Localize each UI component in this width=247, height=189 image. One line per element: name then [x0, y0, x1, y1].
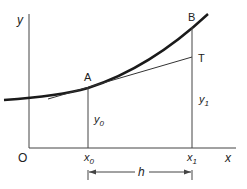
y1-label: y1 — [198, 93, 209, 108]
point-A-label: A — [84, 71, 92, 83]
origin-label: O — [18, 151, 27, 165]
x0-label: x0 — [83, 151, 95, 166]
point-B-label: B — [188, 11, 195, 23]
x-axis-label: x — [224, 151, 232, 165]
arrowhead-left-icon — [89, 170, 96, 175]
x1-label: x1 — [186, 151, 197, 166]
point-T-label: T — [198, 52, 205, 64]
curve — [4, 14, 208, 100]
h-label: h — [138, 165, 145, 179]
tangent-approximation-diagram: y x O A B T y0 y1 x0 x1 h — [0, 0, 247, 189]
arrowhead-right-icon — [184, 170, 191, 175]
tangent-line-AT — [48, 57, 192, 99]
y-axis-label: y — [16, 13, 24, 27]
y0-label: y0 — [93, 113, 105, 128]
